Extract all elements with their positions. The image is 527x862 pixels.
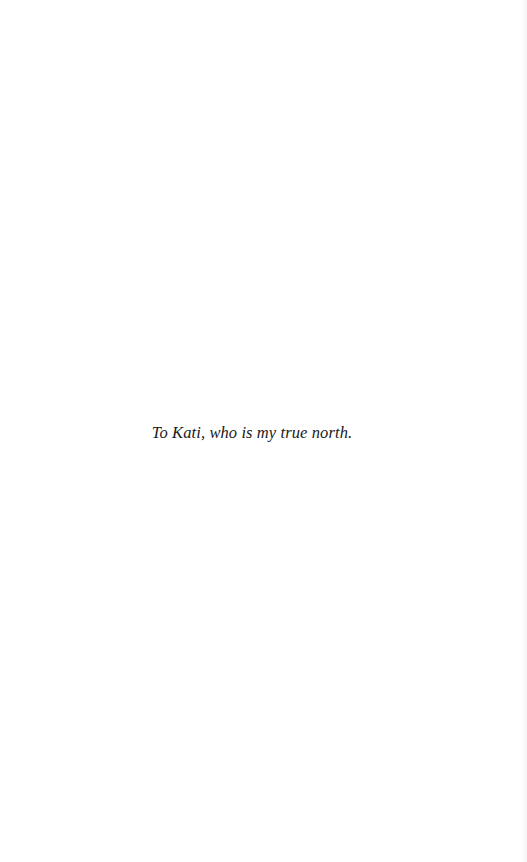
dedication-text: To Kati, who is my true north. — [0, 421, 504, 445]
page-edge-shadow — [521, 0, 527, 862]
book-page: To Kati, who is my true north. — [0, 0, 527, 862]
